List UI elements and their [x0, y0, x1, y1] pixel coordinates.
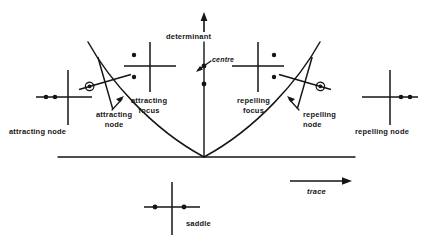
- label-line-1: repelling: [303, 110, 336, 120]
- label-determinant: determinant: [166, 33, 211, 41]
- label-trace: trace: [307, 188, 326, 196]
- eigenvalue-dot: [272, 53, 276, 57]
- label-line-1: attracting: [96, 110, 132, 120]
- diagram-canvas: [0, 0, 432, 243]
- label-repelling-node-right: repelling node: [355, 128, 409, 136]
- eigen-diagram-repelling-node: [362, 70, 418, 125]
- label-centre: centre: [212, 56, 234, 63]
- label-line-2: node: [303, 120, 336, 130]
- eigenvalue-circled-dot: [315, 81, 325, 91]
- label-attracting-node-left: attracting node: [9, 128, 66, 136]
- label-line-1: attracting: [131, 96, 167, 106]
- eigenvalue-dot: [132, 75, 136, 79]
- label-line-2: focus: [131, 106, 167, 116]
- label-attracting-focus: attracting focus: [131, 96, 167, 116]
- eigen-diagram-repelling-focus: [232, 42, 284, 92]
- eigenvalue-dot: [132, 53, 136, 57]
- eigen-diagram-attracting-degenerate-node: [72, 50, 139, 117]
- attracting-degenerate-node-pointer: [112, 96, 124, 110]
- eigenvalue-dot: [408, 95, 413, 100]
- eigen-diagram-attracting-focus: [124, 42, 176, 92]
- label-repelling-degenerate-node: repelling node: [303, 110, 336, 130]
- label-line-2: focus: [237, 106, 270, 116]
- eigenvalue-dot: [53, 95, 58, 100]
- eigenvalue-dot: [44, 95, 49, 100]
- eigenvalue-dot: [202, 82, 207, 87]
- eigenvalue-dot: [153, 205, 158, 210]
- trace-determinant-diagram: determinant centre attracting node attra…: [0, 0, 432, 243]
- determinant-arrow-icon: [201, 12, 208, 32]
- label-line-2: node: [96, 120, 132, 130]
- trace-arrow-icon: [290, 177, 352, 185]
- label-attracting-degenerate-node: attracting node: [96, 110, 132, 130]
- label-saddle: saddle: [186, 220, 211, 228]
- label-line-1: repelling: [237, 96, 270, 106]
- eigenvalue-dot: [399, 95, 404, 100]
- eigenvalue-dot: [202, 64, 207, 69]
- eigenvalue-circled-dot: [84, 81, 94, 91]
- eigenvalue-dot: [182, 205, 187, 210]
- eigen-diagram-attracting-node: [36, 70, 92, 125]
- eigenvalue-dot: [272, 75, 276, 79]
- eigen-diagram-repelling-degenerate-node: [271, 50, 338, 117]
- label-repelling-focus: repelling focus: [237, 96, 270, 116]
